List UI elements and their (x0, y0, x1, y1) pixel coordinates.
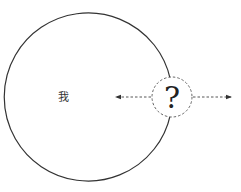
diagram-canvas: 我 ? (0, 0, 241, 192)
self-label: 我 (58, 91, 69, 104)
question-mark-label: ? (164, 80, 180, 115)
